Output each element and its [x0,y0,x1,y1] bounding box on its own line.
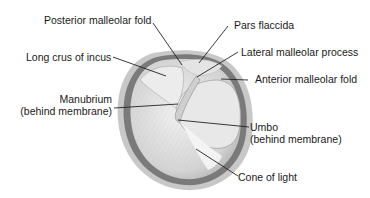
label-umbo-line1: Umbo [250,121,342,133]
tympanic-membrane-diagram: Posterior malleolar fold Pars flaccida L… [0,0,370,198]
label-manubrium-line2: (behind membrane) [20,105,112,117]
label-umbo-line2: (behind membrane) [250,133,342,145]
label-anterior-malleolar-fold: Anterior malleolar fold [255,73,357,85]
label-pars-flaccida: Pars flaccida [234,19,294,31]
label-manubrium-line1: Manubrium [20,93,112,105]
label-cone-of-light: Cone of light [238,171,297,183]
umbo-point [177,119,181,123]
label-umbo: Umbo (behind membrane) [250,121,342,145]
label-manubrium: Manubrium (behind membrane) [20,93,112,117]
label-long-crus-of-incus: Long crus of incus [26,51,111,63]
label-posterior-malleolar-fold: Posterior malleolar fold [44,14,151,26]
label-lateral-malleolar-process: Lateral malleolar process [241,46,358,58]
